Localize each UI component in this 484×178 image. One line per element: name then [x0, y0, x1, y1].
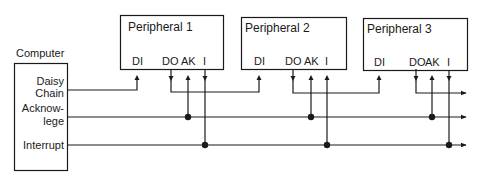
junctions	[185, 114, 452, 148]
daisy-chain-label-1: Daisy	[18, 75, 64, 87]
junction-dot	[202, 142, 208, 148]
daisy-chain-line-p2-to-p3	[293, 69, 379, 93]
peripheral-1-do-pin: DO	[162, 55, 179, 67]
junction-dot	[446, 142, 452, 148]
peripheral-2-title: Peripheral 2	[245, 22, 310, 34]
arrow-up-icon	[186, 75, 191, 80]
junction-dot	[308, 114, 314, 120]
daisy-chain-label-2: Chain	[18, 87, 64, 99]
arrow-up-icon	[257, 75, 262, 80]
daisy-chain-line-p3-out	[416, 69, 466, 93]
junction-dot	[324, 142, 330, 148]
peripheral-2-di-pin: DI	[254, 55, 265, 67]
arrow-down-icon	[414, 76, 419, 81]
daisy-chain-line-p1-to-p2	[171, 69, 259, 92]
peripheral-1-ak-pin: AK	[181, 55, 196, 67]
arrow-up-icon	[135, 75, 140, 80]
acknowledge-label-1: Acknow-	[16, 102, 64, 114]
interrupt-label: Interrupt	[16, 139, 64, 151]
peripheral-3-title: Peripheral 3	[367, 23, 432, 35]
peripheral-2-do-pin: DO	[285, 55, 302, 67]
junction-dot	[429, 114, 435, 120]
daisy-chain-line-computer-to-p1	[67, 78, 137, 90]
peripheral-1-i-pin: I	[203, 55, 206, 67]
peripheral-3-ak-pin: AK	[425, 56, 440, 68]
acknowledge-label-2: lege	[16, 115, 64, 127]
peripheral-2-ak-pin: AK	[304, 55, 319, 67]
arrow-up-icon	[325, 75, 330, 80]
arrow-down-icon	[447, 76, 452, 81]
arrow-up-icon	[430, 75, 435, 80]
arrow-down-icon	[169, 76, 174, 81]
peripheral-3-di-pin: DI	[374, 56, 385, 68]
arrow-up-icon	[309, 75, 314, 80]
arrow-down-icon	[203, 76, 208, 81]
junction-dot	[185, 114, 191, 120]
peripheral-1-title: Peripheral 1	[128, 21, 193, 33]
peripheral-3-do-pin: DO	[409, 56, 426, 68]
arrow-up-icon	[377, 75, 382, 80]
peripheral-1-di-pin: DI	[132, 55, 143, 67]
peripheral-2-i-pin: I	[325, 55, 328, 67]
computer-title: Computer	[16, 47, 64, 59]
peripheral-3-i-pin: I	[447, 56, 450, 68]
arrow-down-icon	[291, 76, 296, 81]
